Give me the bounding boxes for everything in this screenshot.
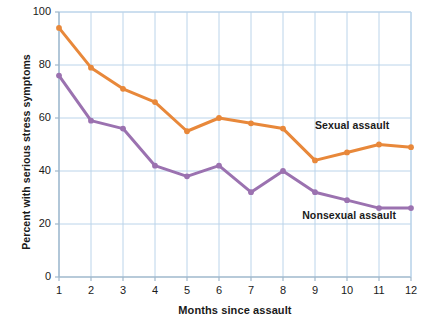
chart-canvas (0, 0, 431, 331)
series-line-0 (59, 28, 411, 161)
data-point (408, 144, 414, 150)
axis-lines (55, 12, 411, 281)
data-point (280, 168, 286, 174)
data-point (248, 120, 254, 126)
data-point (344, 197, 350, 203)
data-point (56, 73, 62, 79)
x-tick-label: 1 (47, 284, 71, 296)
x-tick-label: 2 (79, 284, 103, 296)
series-line-1 (59, 76, 411, 209)
data-point (184, 173, 190, 179)
data-point (152, 163, 158, 169)
x-tick-label: 6 (207, 284, 231, 296)
x-tick-label: 5 (175, 284, 199, 296)
data-point (216, 115, 222, 121)
data-point (152, 99, 158, 105)
data-point (408, 205, 414, 211)
data-point (88, 65, 94, 71)
data-point (88, 118, 94, 124)
x-tick-label: 7 (239, 284, 263, 296)
data-point (56, 25, 62, 31)
x-axis-title: Months since assault (59, 304, 411, 316)
x-tick-label: 11 (367, 284, 391, 296)
data-point (248, 189, 254, 195)
line-chart: 100806040200 123456789101112 Percent wit… (0, 0, 431, 331)
data-point (120, 86, 126, 92)
x-tick-label: 3 (111, 284, 135, 296)
x-tick-label: 12 (399, 284, 423, 296)
y-axis-title: Percent with serious stress symptoms (20, 42, 32, 262)
data-point (280, 126, 286, 132)
series-label-0: Sexual assault (315, 119, 389, 131)
data-point (184, 128, 190, 134)
series-label-1: Nonsexual assault (302, 209, 396, 221)
data-point (312, 189, 318, 195)
data-point (344, 150, 350, 156)
y-tick-label: 100 (21, 5, 51, 17)
data-point (216, 163, 222, 169)
grid-lines (59, 12, 411, 277)
data-point (312, 158, 318, 164)
data-point (376, 142, 382, 148)
x-tick-label: 10 (335, 284, 359, 296)
data-point (120, 126, 126, 132)
x-tick-label: 8 (271, 284, 295, 296)
x-tick-label: 4 (143, 284, 167, 296)
y-tick-label: 0 (21, 270, 51, 282)
x-tick-label: 9 (303, 284, 327, 296)
